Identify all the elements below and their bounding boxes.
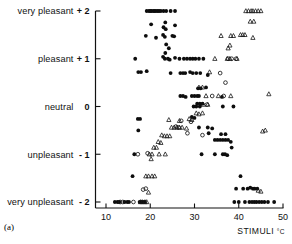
data-point (164, 27, 168, 31)
y-tick-number-1: + 1 (77, 54, 90, 64)
data-point (207, 70, 211, 74)
data-point (230, 146, 234, 150)
data-point (132, 200, 136, 204)
data-point (153, 174, 157, 178)
data-point (263, 128, 267, 132)
data-point (173, 23, 177, 27)
data-point (252, 19, 256, 23)
y-tick-label-0: very pleasant (18, 6, 74, 16)
y-tick-label-3: unpleasant (28, 150, 74, 160)
data-point (198, 71, 202, 75)
data-point (150, 152, 154, 156)
data-point (267, 92, 271, 96)
data-point (232, 105, 236, 109)
data-point (197, 57, 201, 61)
data-point (149, 22, 153, 26)
data-point (164, 43, 168, 47)
x-tick-label-2: 30 (189, 212, 199, 222)
data-point (127, 200, 131, 204)
y-tick-label-2: neutral (45, 102, 74, 112)
data-point (219, 34, 223, 38)
y-tick-number-3: - 1 (79, 150, 90, 160)
x-tick-label-1: 20 (145, 212, 155, 222)
x-tick-label-0: 10 (101, 212, 111, 222)
data-point (154, 145, 158, 149)
data-point (197, 94, 201, 98)
data-point (173, 56, 177, 60)
y-tick-label-1: pleasant (38, 54, 74, 64)
data-points-layer (113, 9, 276, 204)
data-point (225, 153, 229, 157)
data-point (259, 9, 263, 13)
data-point (139, 70, 143, 74)
data-point (163, 21, 167, 25)
data-point (131, 174, 135, 178)
data-point (232, 200, 236, 204)
data-point (172, 34, 176, 38)
data-point (201, 57, 205, 61)
data-point (228, 43, 232, 47)
data-point (163, 51, 167, 55)
data-point (157, 152, 161, 156)
data-point (213, 152, 217, 156)
data-point (229, 94, 233, 98)
data-point (154, 36, 158, 40)
data-point (167, 46, 171, 50)
data-point (169, 71, 173, 75)
data-point (243, 200, 247, 204)
data-point (263, 200, 267, 204)
y-axis (96, 11, 101, 202)
data-point (184, 126, 188, 130)
data-point (197, 126, 201, 130)
data-point (237, 200, 241, 204)
data-point (272, 200, 276, 204)
data-point (210, 127, 214, 131)
data-point (146, 190, 150, 194)
data-point (183, 71, 187, 75)
data-point (201, 133, 205, 137)
data-point (207, 131, 211, 135)
x-tick-label-3: 40 (234, 212, 244, 222)
data-point (167, 118, 171, 122)
data-point (219, 132, 223, 136)
panel-label: (a) (4, 222, 14, 232)
x-axis-title: STIMULI °C (237, 226, 285, 236)
data-point (145, 69, 149, 73)
data-point (193, 57, 197, 61)
data-point (200, 152, 204, 156)
data-point (224, 132, 228, 136)
data-point (163, 35, 167, 39)
data-point (218, 71, 222, 75)
data-point (224, 81, 228, 85)
data-point (186, 131, 190, 135)
data-point (173, 9, 177, 13)
data-point (169, 9, 173, 13)
y-tick-number-0: + 2 (77, 6, 90, 16)
data-point (241, 187, 245, 191)
data-point (149, 157, 153, 161)
data-point (239, 174, 243, 178)
series-open-circle (118, 57, 238, 204)
data-point (234, 187, 238, 191)
y-tick-number-2: 0 (84, 102, 89, 112)
data-point (221, 105, 225, 109)
data-point (231, 34, 235, 38)
data-point (138, 117, 142, 121)
thermal-pleasantness-scatter-figure: + 2very pleasant+ 1pleasant0neutral- 1un… (0, 0, 292, 244)
data-point (133, 57, 137, 61)
data-point (136, 152, 140, 156)
x-tick-label-4: 50 (278, 212, 288, 222)
data-point (229, 140, 233, 144)
series-open-triangle (138, 9, 271, 204)
data-point (191, 71, 195, 75)
data-point (204, 94, 208, 98)
data-point (200, 111, 204, 115)
data-point (144, 34, 148, 38)
data-point (184, 95, 188, 99)
data-point (136, 128, 140, 132)
data-point (210, 94, 214, 98)
data-point (213, 56, 217, 60)
data-point (216, 94, 220, 98)
y-tick-number-4: - 2 (79, 197, 90, 207)
y-tick-label-4: very unpleasant (7, 197, 74, 207)
